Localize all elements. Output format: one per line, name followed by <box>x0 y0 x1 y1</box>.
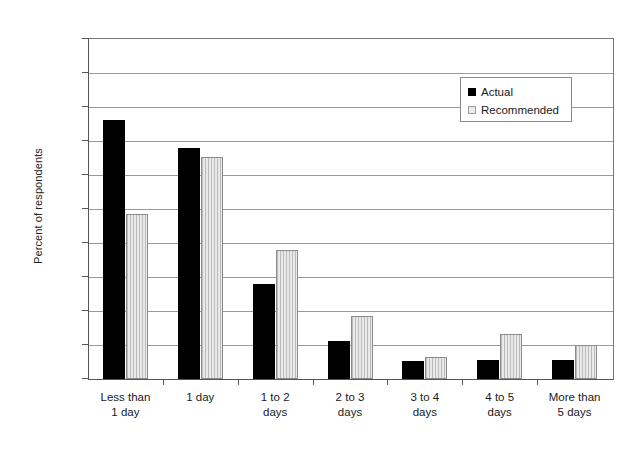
bar-group <box>164 39 239 379</box>
legend-swatch-actual-icon <box>468 88 476 96</box>
bar-actual <box>552 360 574 379</box>
x-tick-mark <box>163 379 164 385</box>
y-axis-title: Percent of respondents <box>32 106 44 306</box>
legend-label: Actual <box>481 86 513 98</box>
x-tick-mark <box>387 379 388 385</box>
bar-recommended <box>351 316 373 379</box>
legend-swatch-recommended-icon <box>468 106 476 114</box>
x-tick-label-line1: More than <box>529 390 621 405</box>
chart-legend: ActualRecommended <box>460 77 572 122</box>
bar-actual <box>178 148 200 379</box>
bar-recommended <box>201 157 223 379</box>
bar-actual <box>328 341 350 379</box>
x-tick-mark <box>462 379 463 385</box>
bar-chart: Percent of respondents 0%5%10%15%20%25%3… <box>0 0 640 451</box>
bar-recommended <box>575 345 597 379</box>
bar-group <box>314 39 389 379</box>
bar-recommended <box>500 334 522 379</box>
bar-recommended <box>425 357 447 379</box>
bar-group <box>239 39 314 379</box>
x-tick-mark <box>537 379 538 385</box>
legend-label: Recommended <box>481 104 559 116</box>
bar-recommended <box>126 214 148 379</box>
legend-entry: Actual <box>468 83 571 100</box>
bar-actual <box>402 361 424 379</box>
bar-actual <box>253 284 275 379</box>
legend-entry: Recommended <box>468 101 571 118</box>
bar-group <box>89 39 164 379</box>
x-tick-label-line2: 5 days <box>529 405 621 420</box>
bar-group <box>388 39 463 379</box>
bar-actual <box>477 360 499 379</box>
x-tick-mark <box>313 379 314 385</box>
x-tick-mark <box>238 379 239 385</box>
x-tick-label-line2: 1 day <box>79 405 171 420</box>
bar-recommended <box>276 250 298 379</box>
bar-actual <box>103 120 125 379</box>
x-tick-label: More than5 days <box>529 390 621 420</box>
